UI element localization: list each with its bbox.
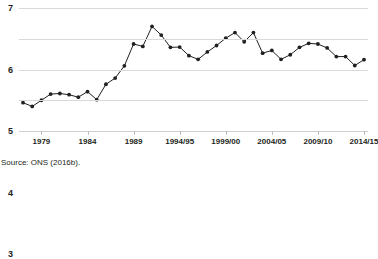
x-tick-label: 1989: [125, 137, 143, 146]
data-point: [113, 76, 117, 80]
data-point: [252, 31, 256, 35]
data-point: [159, 33, 163, 37]
data-point: [86, 90, 90, 94]
x-tick-mark: [41, 131, 42, 135]
y-tick-label: 6: [8, 65, 13, 74]
gridline-y-5: 5: [19, 70, 368, 71]
x-tick-mark: [180, 131, 181, 135]
data-point: [279, 57, 283, 61]
data-point: [30, 105, 34, 109]
data-point: [298, 45, 302, 49]
x-tick-label: 2014/15: [350, 137, 378, 146]
data-point: [261, 51, 265, 55]
data-point: [242, 40, 246, 44]
x-tick-label: 1979: [33, 137, 51, 146]
data-point: [104, 82, 108, 86]
data-point: [288, 53, 292, 57]
y-tick-label: 5: [8, 127, 13, 136]
gridline-y-7: 7: [19, 8, 368, 9]
data-point: [215, 44, 219, 48]
x-tick-mark: [88, 131, 89, 135]
gridline-y-6: 6: [19, 39, 368, 40]
y-tick-label: 4: [8, 188, 13, 197]
data-point: [307, 41, 311, 45]
data-point: [58, 92, 62, 96]
source-note: Source: ONS (2016b).: [1, 158, 80, 168]
data-point: [325, 46, 329, 50]
x-tick-label: 2004/05: [257, 137, 286, 146]
x-tick-label: 1984: [79, 137, 97, 146]
x-tick-label: 1994/95: [165, 137, 194, 146]
data-point: [334, 55, 338, 59]
data-point: [122, 64, 126, 68]
x-axis-line: [19, 131, 368, 132]
y-tick-label: 7: [8, 4, 13, 13]
x-tick-label: 1999/00: [211, 137, 240, 146]
data-point: [150, 25, 154, 29]
x-tick-mark: [272, 131, 273, 135]
data-point: [270, 49, 274, 53]
data-point: [205, 50, 209, 54]
data-point: [67, 93, 71, 97]
plot-area: 34567: [19, 8, 368, 131]
data-point: [21, 101, 25, 105]
gridline-y-4: 4: [19, 100, 368, 101]
x-tick-mark: [134, 131, 135, 135]
y-tick-label: 3: [8, 250, 13, 259]
x-tick-mark: [226, 131, 227, 135]
data-point: [49, 92, 53, 96]
data-point: [141, 45, 145, 49]
data-point: [344, 55, 348, 59]
data-point: [353, 64, 357, 68]
x-tick-mark: [364, 131, 365, 135]
data-point: [316, 42, 320, 46]
data-point: [169, 45, 173, 49]
data-point: [76, 95, 80, 99]
data-point: [187, 54, 191, 58]
data-point: [178, 45, 182, 49]
data-point: [196, 57, 200, 61]
data-point: [132, 42, 136, 46]
data-point: [233, 31, 237, 35]
data-point: [362, 58, 366, 62]
x-tick-mark: [318, 131, 319, 135]
x-tick-label: 2009/10: [303, 137, 332, 146]
